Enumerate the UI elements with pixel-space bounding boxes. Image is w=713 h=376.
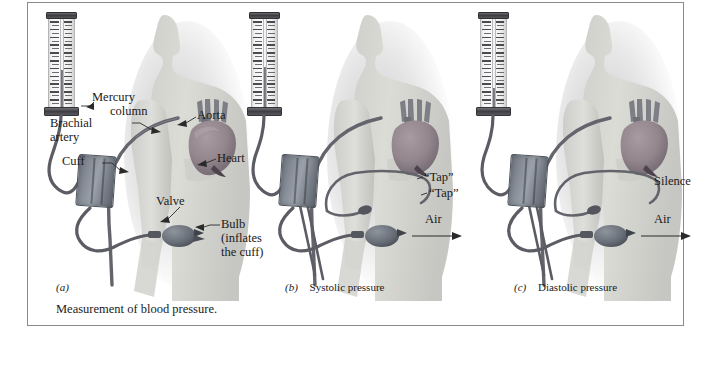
manometer-tick <box>495 21 504 23</box>
manometer-tick <box>495 83 504 85</box>
valve-body <box>580 231 593 238</box>
panel-a-letter: (a) <box>56 281 69 293</box>
manometer-glass-tube <box>492 19 496 107</box>
tap-leader-marks <box>257 3 476 303</box>
manometer-tick <box>497 25 504 26</box>
mercury-manometer <box>478 12 509 116</box>
manometer-tick <box>495 68 504 70</box>
manometer-tick <box>495 44 504 46</box>
manometer-tick <box>497 33 504 34</box>
manometer-tick <box>482 99 491 101</box>
manometer-tick <box>484 48 491 49</box>
panel-c-letter: (c) <box>514 281 526 293</box>
air-arrow-icon <box>641 229 693 243</box>
manometer-tick <box>497 80 504 81</box>
manometer-tick <box>497 56 504 57</box>
manometer-tick <box>482 52 491 54</box>
manometer-tick <box>484 103 491 104</box>
manometer-base <box>476 107 511 116</box>
blood-pressure-cuff <box>507 154 549 209</box>
manometer-tick <box>482 76 491 78</box>
manometer-tick <box>497 64 504 65</box>
manometer-tick <box>497 41 504 42</box>
manometer-tick <box>484 64 491 65</box>
figure-frame: Mercury column Brachial artery Cuff Aort… <box>27 2 684 326</box>
panel-b-systolic: “Tap” “Tap” Air (b) Systolic pressure <box>257 3 476 327</box>
manometer-tick <box>495 91 504 93</box>
label-tap-2: “Tap” <box>429 187 459 201</box>
manometer-tick <box>482 60 491 62</box>
panel-c-title: Diastolic pressure <box>538 281 617 293</box>
label-mercury-column: Mercury column <box>92 91 148 118</box>
manometer-scale-right <box>495 19 505 107</box>
cuff-seam <box>522 158 527 204</box>
manometer-tick <box>484 56 491 57</box>
manometer-tick <box>484 80 491 81</box>
bulb-body <box>594 225 628 247</box>
manometer-tick <box>497 72 504 73</box>
manometer-tick <box>495 37 504 39</box>
label-cuff: Cuff <box>62 155 85 169</box>
manometer-tick <box>482 68 491 70</box>
label-valve: Valve <box>156 195 184 209</box>
label-aorta: Aorta <box>197 109 225 123</box>
manometer-tick <box>484 25 491 26</box>
manometer-tick <box>484 72 491 73</box>
manometer-tick <box>497 95 504 96</box>
manometer-tick <box>495 29 504 31</box>
manometer-tick <box>495 52 504 54</box>
manometer-tick <box>495 76 504 78</box>
manometer-tick <box>482 29 491 31</box>
panel-a-measurement: Mercury column Brachial artery Cuff Aort… <box>28 3 247 327</box>
label-tap-1: “Tap” <box>424 171 454 185</box>
panel-c-diastolic: Silence Air (c) Diastolic pressure <box>486 3 705 327</box>
manometer-tick <box>495 99 504 101</box>
panel-a-caption: (a) <box>56 281 69 293</box>
figure-caption: Measurement of blood pressure. <box>56 302 217 317</box>
manometer-scale-body <box>480 19 507 107</box>
manometer-top-cap <box>478 12 509 19</box>
label-brachial-artery: Brachial artery <box>50 117 92 144</box>
manometer-tick <box>484 33 491 34</box>
manometer-tick <box>497 87 504 88</box>
label-air: Air <box>654 213 671 227</box>
manometer-tick <box>482 83 491 85</box>
panel-b-letter: (b) <box>285 281 298 293</box>
manometer-tick <box>484 95 491 96</box>
manometer-tick <box>497 103 504 104</box>
label-leader-lines <box>28 3 247 303</box>
manometer-tick <box>482 91 491 93</box>
valve-and-bulb <box>578 215 640 255</box>
manometer-tick <box>482 21 491 23</box>
label-heart: Heart <box>217 152 245 166</box>
manometer-scale-left <box>482 19 492 107</box>
manometer-tick <box>484 41 491 42</box>
panel-b-caption: (b) Systolic pressure <box>285 281 384 293</box>
manometer-tick <box>495 60 504 62</box>
manometer-tick <box>482 44 491 46</box>
stethoscope <box>550 169 665 217</box>
panel-b-title: Systolic pressure <box>310 281 385 293</box>
manometer-tick <box>497 48 504 49</box>
manometer-tick <box>484 87 491 88</box>
manometer-tick <box>482 37 491 39</box>
label-air: Air <box>425 213 442 227</box>
cuff-seam-2 <box>532 158 537 204</box>
label-silence: Silence <box>654 175 691 189</box>
mercury-column-fill <box>493 88 495 107</box>
panel-c-caption: (c) Diastolic pressure <box>514 281 617 293</box>
